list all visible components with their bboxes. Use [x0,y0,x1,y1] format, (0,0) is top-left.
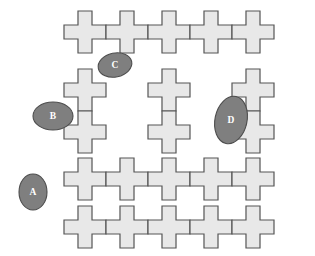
marker-ellipse[interactable] [33,102,73,130]
marker-ellipse[interactable] [19,174,47,210]
region-marker-b[interactable]: B [33,102,73,130]
region-marker-a[interactable]: A [19,174,47,210]
cross-tiling-diagram: ABCD [0,0,315,256]
diagram-canvas: ABCD [0,0,315,256]
